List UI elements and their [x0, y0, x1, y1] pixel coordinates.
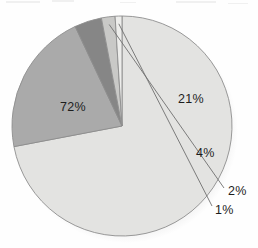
slice-label-21: 21% — [178, 92, 204, 106]
slice-label-4: 4% — [196, 146, 215, 160]
pie-chart-figure: 72% 21% 4% 2% 1% — [0, 0, 258, 248]
slice-label-72: 72% — [60, 100, 86, 114]
slice-label-2: 2% — [228, 184, 247, 198]
pie-slices — [12, 16, 232, 236]
slice-label-1: 1% — [215, 203, 234, 217]
